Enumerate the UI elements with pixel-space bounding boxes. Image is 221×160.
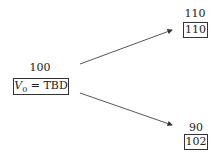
down-value-box: 102 — [184, 134, 208, 150]
root-value-box: V0 = TBD — [13, 78, 69, 95]
root-value-eq: = TBD — [31, 79, 68, 92]
root-price-label: 100 — [26, 62, 54, 74]
up-value-box: 110 — [183, 22, 208, 38]
up-price-label: 110 — [181, 8, 209, 20]
down-price-label: 90 — [182, 122, 210, 134]
arrow-up — [80, 30, 172, 64]
root-value-var: V — [14, 79, 22, 92]
root-value-sub: 0 — [22, 85, 27, 94]
arrow-down — [80, 93, 172, 125]
